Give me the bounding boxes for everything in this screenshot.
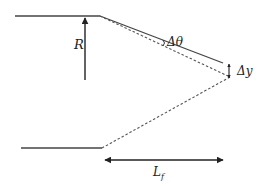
angle-arc-icon: [163, 40, 165, 46]
length-label: Lf: [152, 165, 166, 181]
upper-dashed-line: [100, 16, 230, 77]
deflected-line: [100, 16, 223, 63]
lower-dashed-line: [102, 77, 230, 148]
angle-label: Δθ: [166, 35, 184, 49]
deflection-label: Δy: [236, 64, 253, 78]
deflection-diagram: R Δθ Δy Lf: [0, 0, 265, 186]
radius-label: R: [73, 37, 84, 52]
